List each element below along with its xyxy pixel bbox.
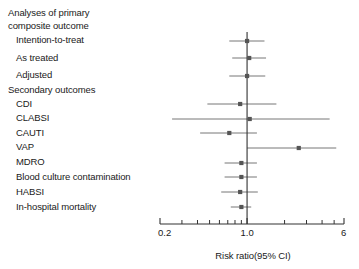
- x-axis-layer: [160, 218, 344, 224]
- row-label-column: Analyses of primary composite outcome In…: [0, 0, 170, 269]
- point-estimate-marker: [239, 205, 243, 209]
- row-label-composite-outcome: composite outcome: [8, 21, 89, 31]
- point-estimate-marker: [248, 117, 252, 121]
- forest-plot-figure: Analyses of primary composite outcome In…: [0, 0, 359, 269]
- point-estimate-marker: [247, 56, 251, 60]
- row-label-clabsi: CLABSI: [16, 113, 49, 123]
- x-axis-tick-label: 1.0: [241, 227, 254, 238]
- row-label-secondary-outcomes: Secondary outcomes: [8, 85, 95, 95]
- point-estimate-layer: [227, 39, 301, 209]
- row-label-cauti: CAUTI: [16, 128, 44, 138]
- row-label-habsi: HABSI: [16, 187, 44, 197]
- row-label-analyses-of-primary: Analyses of primary: [8, 8, 90, 18]
- x-axis-title: Risk ratio(95% CI): [178, 250, 328, 261]
- row-label-as-treated: As treated: [16, 53, 58, 63]
- confidence-interval-layer: [172, 41, 336, 207]
- row-label-blood-culture-contamination: Blood culture contamination: [16, 172, 131, 182]
- x-axis-tick-label: 0.2: [158, 227, 171, 238]
- point-estimate-marker: [239, 161, 243, 165]
- x-axis-tick-label: 6: [341, 227, 346, 238]
- row-label-in-hospital-mortality: In-hospital mortality: [16, 202, 96, 212]
- point-estimate-marker: [297, 146, 301, 150]
- row-label-mdro: MDRO: [16, 157, 45, 167]
- row-label-vap: VAP: [16, 142, 34, 152]
- point-estimate-marker: [245, 39, 249, 43]
- row-label-intention-to-treat: Intention-to-treat: [16, 35, 84, 45]
- row-label-cdi: CDI: [16, 99, 32, 109]
- point-estimate-marker: [238, 190, 242, 194]
- point-estimate-marker: [239, 175, 243, 179]
- point-estimate-marker: [227, 131, 231, 135]
- row-label-adjusted: Adjusted: [16, 70, 52, 80]
- point-estimate-marker: [245, 74, 249, 78]
- point-estimate-marker: [238, 102, 242, 106]
